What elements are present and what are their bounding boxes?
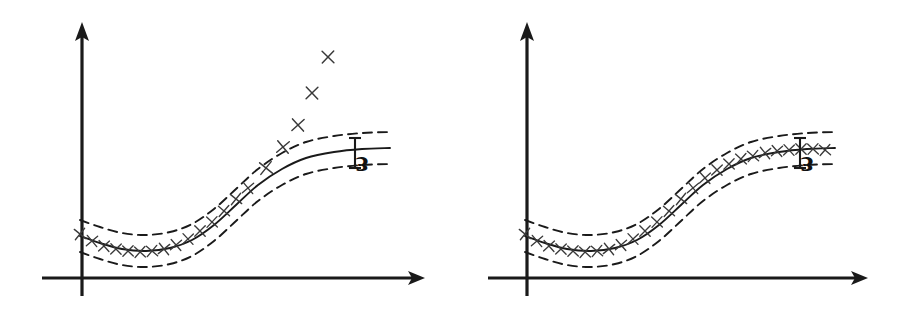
panel-all-inside-tube: ɛ (452, 0, 903, 316)
epsilon-marker-left: ɛ (349, 138, 368, 184)
figure-root: ɛ ɛ (0, 0, 903, 316)
data-point-cross (819, 144, 830, 155)
outlier-point-cross (292, 119, 304, 131)
data-point-cross (519, 228, 530, 239)
tube-upper-edge (80, 132, 390, 235)
data-point-cross (230, 193, 241, 204)
tube-lower-edge (525, 164, 835, 267)
inlier-markers-right (519, 144, 830, 258)
epsilon-label: ɛ (355, 151, 368, 184)
data-point-cross (74, 228, 85, 239)
data-point-cross (687, 182, 698, 193)
panel-right-canvas: ɛ (452, 0, 903, 316)
data-point-cross (675, 193, 686, 204)
tube-upper-edge (525, 132, 835, 235)
data-point-cross (580, 247, 591, 258)
data-point-cross (663, 205, 674, 216)
epsilon-label: ɛ (800, 151, 813, 184)
data-point-cross (242, 182, 253, 193)
data-point-cross (712, 165, 723, 176)
data-point-cross (700, 173, 711, 184)
data-point-cross (135, 247, 146, 258)
inlier-markers-left (74, 182, 253, 257)
panel-with-outliers: ɛ (0, 0, 452, 316)
outlier-point-cross (306, 87, 318, 99)
data-point-cross (218, 205, 229, 216)
outlier-point-cross (322, 51, 334, 63)
tube-lower-edge (80, 164, 390, 267)
outlier-markers-left (260, 51, 334, 174)
panel-left-canvas: ɛ (0, 0, 452, 316)
